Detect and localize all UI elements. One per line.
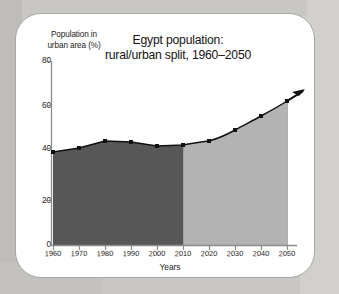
trend-arrow-icon: [292, 89, 305, 96]
data-point-2010: [181, 143, 185, 147]
area-projected: [183, 101, 287, 245]
area-historical: [53, 141, 183, 245]
data-point-1990: [129, 140, 133, 144]
data-point-2030: [233, 128, 237, 132]
chart-plot-svg: [0, 0, 339, 294]
data-point-2050: [285, 99, 289, 103]
data-point-1970: [77, 146, 81, 150]
data-point-2020: [207, 139, 211, 143]
page-root: Population in urban area (%) Egypt popul…: [0, 0, 339, 294]
data-point-1960: [51, 150, 55, 154]
chart-figure: Population in urban area (%) Egypt popul…: [0, 0, 339, 294]
data-point-2000: [155, 144, 159, 148]
data-point-2040: [259, 114, 263, 118]
data-point-1980: [103, 139, 107, 143]
